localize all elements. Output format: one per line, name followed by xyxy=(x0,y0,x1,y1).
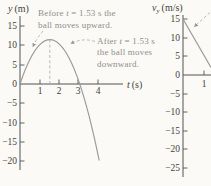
right-y-tick-label: 10 xyxy=(171,33,181,43)
right-y-tick-label: 5 xyxy=(175,51,180,61)
left-y-axis-label: y(m) xyxy=(7,3,29,15)
right-y-tick-marks xyxy=(183,19,188,168)
velocity-line xyxy=(183,19,211,68)
svg-text:downward.: downward. xyxy=(97,59,139,69)
left-y-tick-label: 0 xyxy=(12,79,17,89)
right-y-tick-label: −5 xyxy=(170,89,180,99)
before-annotation-arrow xyxy=(33,31,43,47)
charts-canvas: 15 10 5 0 −5 −10 −15 −20 1 2 3 4 y(m) t(… xyxy=(0,0,211,186)
right-y-tick-label: −25 xyxy=(165,163,180,173)
left-x-tick-marks xyxy=(40,80,98,85)
left-y-tick-label: 10 xyxy=(8,40,18,50)
left-y-tick-label: −20 xyxy=(2,156,17,166)
after-annotation-arrow xyxy=(71,40,95,44)
left-x-tick-label: 1 xyxy=(38,86,43,96)
kinematics-figure: 15 10 5 0 −5 −10 −15 −20 1 2 3 4 y(m) t(… xyxy=(0,0,211,186)
left-x-tick-label: 4 xyxy=(96,86,101,96)
right-y-tick-label: −10 xyxy=(165,107,180,117)
left-y-tick-label: 15 xyxy=(8,21,18,31)
velocity-annotation-arrow xyxy=(195,13,211,27)
left-x-axis-label: t(s) xyxy=(127,79,142,91)
annotation-after-peak: After t = 1.53 s the ball moves downward… xyxy=(71,36,155,69)
svg-text:Before t = 1.53 s the: Before t = 1.53 s the xyxy=(38,8,116,18)
right-x-tick-label: 1 xyxy=(202,79,207,89)
velocity-time-chart: 15 10 5 0 −5 −10 −15 −20 −25 1 vy(m/s) xyxy=(152,2,211,177)
svg-text:ball moves upward.: ball moves upward. xyxy=(38,20,112,30)
left-x-tick-label: 2 xyxy=(57,86,62,96)
left-y-tick-label: −10 xyxy=(2,118,17,128)
right-y-tick-label: −15 xyxy=(165,126,180,136)
height-curve xyxy=(20,40,99,161)
right-y-tick-label: −20 xyxy=(165,144,180,154)
right-y-tick-label: 0 xyxy=(175,70,180,80)
left-y-tick-label: 5 xyxy=(12,60,17,70)
left-x-tick-label: 3 xyxy=(76,86,81,96)
svg-text:After t = 1.53 s: After t = 1.53 s xyxy=(97,36,155,46)
right-y-tick-label: 15 xyxy=(171,14,181,24)
svg-text:the ball moves: the ball moves xyxy=(97,47,153,57)
left-y-tick-label: −5 xyxy=(7,98,17,108)
left-y-tick-label: −15 xyxy=(2,137,17,147)
position-time-chart: 15 10 5 0 −5 −10 −15 −20 1 2 3 4 y(m) t(… xyxy=(2,3,155,170)
left-y-tick-marks xyxy=(20,26,25,161)
